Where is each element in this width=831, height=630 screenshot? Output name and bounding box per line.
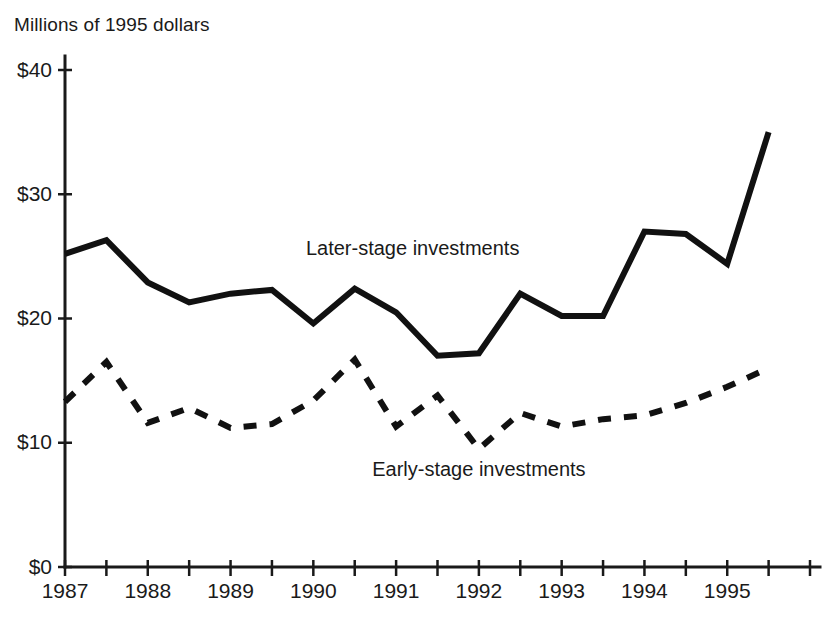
y-axis-tick-labels: $0$10$20$30$40 [17, 58, 52, 578]
series-label: Later-stage investments [306, 237, 519, 259]
x-tick-label: 1991 [373, 579, 420, 602]
line-chart-plot: $0$10$20$30$40 1987198819891990199119921… [0, 0, 831, 630]
x-tick-label: 1989 [207, 579, 254, 602]
x-tick-label: 1992 [456, 579, 503, 602]
data-series-group [65, 132, 769, 449]
x-tick-label: 1987 [42, 579, 89, 602]
series-annotations: Later-stage investmentsEarly-stage inves… [306, 237, 586, 480]
series-line-dashed [65, 360, 769, 449]
axis-tick-marks [58, 70, 810, 576]
y-tick-label: $40 [17, 58, 52, 81]
chart-container: Millions of 1995 dollars $0$10$20$30$40 … [0, 0, 831, 630]
y-tick-label: $10 [17, 430, 52, 453]
x-axis-tick-labels: 198719881989199019911992199319941995 [42, 579, 751, 602]
x-tick-label: 1990 [290, 579, 337, 602]
y-tick-label: $30 [17, 182, 52, 205]
series-label: Early-stage investments [372, 458, 585, 480]
y-tick-label: $0 [29, 555, 52, 578]
x-tick-label: 1994 [621, 579, 668, 602]
y-tick-label: $20 [17, 306, 52, 329]
x-tick-label: 1993 [538, 579, 585, 602]
x-tick-label: 1988 [124, 579, 171, 602]
x-tick-label: 1995 [704, 579, 751, 602]
